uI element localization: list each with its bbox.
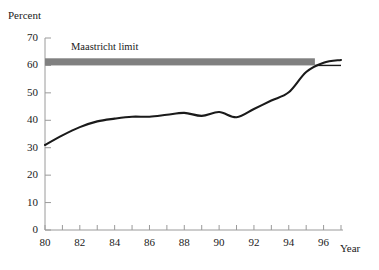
x-tick-label: 82 bbox=[68, 237, 92, 248]
x-tick-label: 86 bbox=[137, 237, 161, 248]
maastricht-limit-band bbox=[45, 58, 315, 65]
y-tick-label: 60 bbox=[12, 59, 38, 70]
y-tick-label: 70 bbox=[12, 32, 38, 43]
chart-figure: Percent Year Maastricht limit 0102030405… bbox=[0, 0, 379, 270]
y-tick-label: 30 bbox=[12, 142, 38, 153]
x-tick-label: 90 bbox=[207, 237, 231, 248]
x-tick-label: 94 bbox=[277, 237, 301, 248]
y-tick-label: 20 bbox=[12, 169, 38, 180]
y-tick-label: 40 bbox=[12, 114, 38, 125]
x-tick-label: 96 bbox=[312, 237, 336, 248]
y-axis-ticks bbox=[45, 38, 51, 230]
chart-plot-area bbox=[0, 0, 379, 270]
x-axis-ticks bbox=[45, 225, 341, 230]
y-tick-label: 50 bbox=[12, 87, 38, 98]
y-tick-label: 10 bbox=[12, 197, 38, 208]
debt-series-line bbox=[45, 60, 341, 145]
x-tick-label: 92 bbox=[242, 237, 266, 248]
x-tick-label: 88 bbox=[172, 237, 196, 248]
x-tick-label: 84 bbox=[103, 237, 127, 248]
y-tick-label: 0 bbox=[12, 224, 38, 235]
x-tick-label: 80 bbox=[33, 237, 57, 248]
